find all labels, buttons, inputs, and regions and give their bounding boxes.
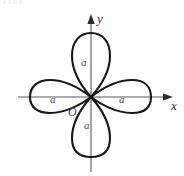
origin-label: O [68,106,77,118]
petal-down-label: a [84,120,90,131]
petal-up-label: a [81,57,87,68]
petal-right-label: a [119,94,125,105]
y-axis-label: y [97,12,103,25]
x-axis-label: x [171,99,177,112]
rose-curve-svg [0,0,184,176]
petal-left-label: a [50,94,56,105]
origin-point [89,95,93,99]
rose-curve-figure: y x O a a a a [0,0,184,176]
y-axis-arrowhead [87,14,94,24]
